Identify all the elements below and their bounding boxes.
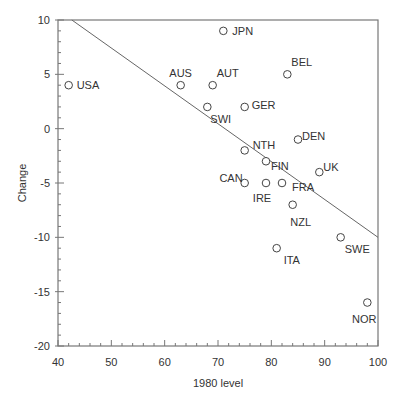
point-marker-icon <box>65 81 73 89</box>
data-point-fra: FRA <box>278 179 314 193</box>
point-marker-icon <box>294 136 302 144</box>
point-label: USA <box>77 79 100 91</box>
point-marker-icon <box>316 168 324 176</box>
y-tick-label: -10 <box>34 231 50 243</box>
point-label: NTH <box>253 139 276 151</box>
point-label: NOR <box>352 313 377 325</box>
point-label: UK <box>323 161 339 173</box>
x-tick-label: 40 <box>52 356 64 368</box>
point-label: DEN <box>302 130 325 142</box>
data-point-jpn: JPN <box>220 25 254 37</box>
data-point-den: DEN <box>294 130 325 144</box>
regression-line <box>72 20 378 237</box>
data-point-aut: AUT <box>209 67 239 89</box>
point-marker-icon <box>177 81 185 89</box>
data-point-aus: AUS <box>169 67 192 89</box>
x-tick-label: 70 <box>212 356 224 368</box>
point-label: JPN <box>232 25 253 37</box>
data-point-ita: ITA <box>273 244 301 266</box>
point-marker-icon <box>209 81 217 89</box>
point-marker-icon <box>262 179 270 187</box>
scatter-chart: 405060708090100 1050-5-10-15-20 USAJPNAU… <box>0 0 400 410</box>
point-label: CAN <box>219 172 242 184</box>
x-tick-label: 60 <box>159 356 171 368</box>
point-label: FRA <box>292 181 315 193</box>
data-points: USAJPNAUSAUTBELSWIGERDENNTHFINUKCANIREFR… <box>65 25 377 325</box>
x-tick-label: 50 <box>105 356 117 368</box>
x-tick-label: 90 <box>319 356 331 368</box>
data-point-nzl: NZL <box>289 201 311 228</box>
point-marker-icon <box>278 179 286 187</box>
y-tick-label: 5 <box>44 68 50 80</box>
x-axis: 405060708090100 <box>52 340 387 368</box>
point-marker-icon <box>204 103 212 111</box>
y-tick-label: 10 <box>38 14 50 26</box>
point-label: AUT <box>217 67 239 79</box>
data-point-ire: IRE <box>253 179 271 204</box>
data-point-uk: UK <box>316 161 340 176</box>
y-axis-title: Change <box>16 164 28 203</box>
point-label: SWI <box>210 113 231 125</box>
data-point-fin: FIN <box>262 157 289 172</box>
data-point-usa: USA <box>65 79 100 91</box>
point-marker-icon <box>364 299 372 307</box>
point-label: AUS <box>169 67 192 79</box>
point-label: IRE <box>253 192 271 204</box>
point-marker-icon <box>273 244 281 252</box>
data-point-nor: NOR <box>352 299 377 325</box>
point-marker-icon <box>284 71 292 79</box>
point-marker-icon <box>241 147 249 155</box>
x-tick-label: 80 <box>265 356 277 368</box>
point-marker-icon <box>241 103 249 111</box>
y-tick-label: -15 <box>34 286 50 298</box>
point-marker-icon <box>337 234 345 242</box>
data-point-can: CAN <box>219 172 248 187</box>
point-marker-icon <box>220 27 228 35</box>
point-marker-icon <box>262 157 270 165</box>
fit-line <box>72 20 378 237</box>
point-label: NZL <box>290 216 311 228</box>
point-label: BEL <box>291 56 312 68</box>
y-axis: 1050-5-10-15-20 <box>34 14 64 352</box>
point-label: SWE <box>345 243 370 255</box>
x-axis-title: 1980 level <box>193 377 243 389</box>
y-tick-label: 0 <box>44 123 50 135</box>
point-label: FIN <box>271 160 289 172</box>
point-label: GER <box>252 99 276 111</box>
point-label: ITA <box>284 254 301 266</box>
x-tick-label: 100 <box>369 356 387 368</box>
y-tick-label: -20 <box>34 340 50 352</box>
data-point-ger: GER <box>241 99 276 111</box>
data-point-bel: BEL <box>284 56 313 78</box>
data-point-swe: SWE <box>337 234 370 256</box>
y-tick-label: -5 <box>40 177 50 189</box>
point-marker-icon <box>289 201 297 209</box>
data-point-swi: SWI <box>204 103 232 125</box>
